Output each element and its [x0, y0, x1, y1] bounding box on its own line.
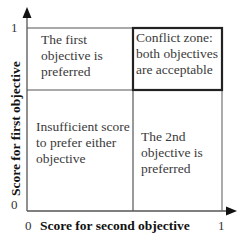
x-axis-arrow-icon — [226, 207, 237, 216]
x-tick-max: 1 — [218, 218, 225, 234]
x-axis-label: Score for second objective — [40, 218, 190, 234]
quadrant-top-left-text: The first objective is preferred — [41, 32, 103, 80]
quadrant-bottom-left-text: Insufficient score to prefer either obje… — [36, 119, 130, 167]
y-axis-label: Score for first objective — [8, 61, 24, 196]
y-axis-arrow-icon — [23, 7, 32, 18]
quadrant-bottom-right-text: The 2nd objective is preferred — [141, 129, 203, 177]
y-tick-min: 0 — [11, 197, 18, 213]
quadrant-top-right-text: Conflict zone: both objectives are accep… — [136, 30, 218, 78]
x-tick-min: 0 — [25, 218, 32, 234]
y-tick-max: 1 — [11, 20, 18, 36]
